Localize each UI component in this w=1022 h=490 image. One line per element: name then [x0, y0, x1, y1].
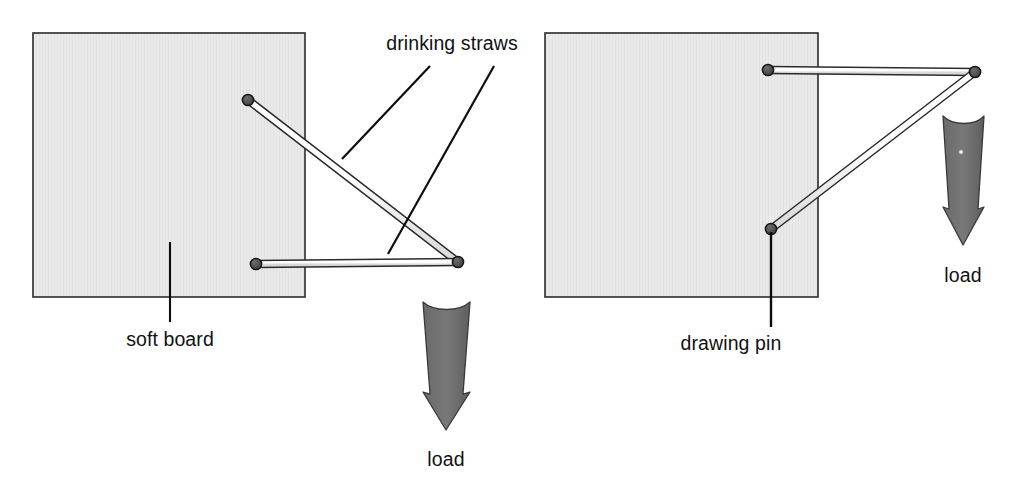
label-soft-board: soft board [126, 328, 214, 350]
drawing-pin-top-left [242, 94, 253, 105]
load-arrow-left [423, 302, 470, 430]
diagram-canvas: drinking straws soft board load drawing … [0, 0, 1022, 490]
drawing-pin-bottom-left [250, 258, 261, 269]
label-load-left: load [427, 448, 464, 470]
drawing-pin-top-right [762, 64, 773, 75]
label-load-right: load [944, 264, 981, 286]
joint-pin-right [969, 66, 980, 77]
straw-truss-figure: drinking straws soft board load drawing … [0, 0, 1022, 490]
joint-pin-left [452, 256, 463, 267]
horizontal-straw-right [768, 70, 975, 72]
label-drinking-straws: drinking straws [386, 32, 518, 54]
leader-to-diagonal-straw [342, 66, 430, 159]
straw-label-leaders [342, 66, 494, 254]
load-arrow-right [943, 116, 984, 245]
arrow-speck-right [959, 150, 963, 154]
label-drawing-pin: drawing pin [681, 332, 782, 354]
horizontal-straw-left [256, 262, 458, 264]
right-arrangement [545, 33, 984, 327]
